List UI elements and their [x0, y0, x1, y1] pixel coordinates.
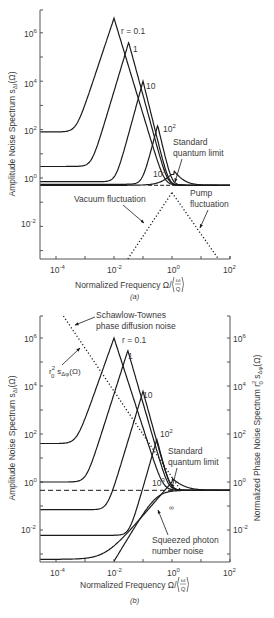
x-tick-label: 10-4 — [50, 567, 65, 578]
label-r-100: 102 — [163, 123, 176, 134]
label-schawlow-townes-line2: phase diffusion noise — [96, 321, 176, 331]
omega-over-q-fraction: ω Q — [173, 277, 184, 292]
y-tick-label-right: 106 — [233, 333, 246, 344]
label-r-100: 102 — [160, 428, 173, 439]
label-r-0.1: r = 0.1 — [121, 26, 146, 36]
label-sql-line2: quantum limit — [168, 457, 219, 467]
label-squeezed-line2: number noise — [152, 546, 204, 556]
svg-text:ω: ω — [176, 277, 181, 283]
curve-r-0-1 — [40, 338, 230, 490]
figure: 10-4 10-2 100 102 106 104 102 100 10-2 A… — [0, 0, 274, 618]
svg-text:Q: Q — [176, 286, 181, 292]
panel-b-annotations: Schawlow-Townes phase diffusion noise r2… — [49, 310, 219, 556]
x-tick-label: 102 — [223, 264, 236, 275]
label-sql-line1: Standard — [173, 137, 208, 147]
panel-a-y-tick-labels: 106 104 102 100 10-2 — [21, 28, 37, 229]
x-tick-label: 10-2 — [107, 567, 122, 578]
omega-over-q-fraction: ω Q — [178, 577, 189, 592]
vacuum-arrow — [123, 205, 144, 223]
panel-b-y-label-left: Amplitude Noise Spectrum sΔI(Ω) — [7, 375, 18, 500]
panel-b-x-label: Normalized Frequency Ω/ — [80, 580, 177, 590]
label-r-1000: 103 — [152, 477, 165, 488]
panel-b-x-tick-labels: 10-4 10-2 100 102 — [50, 567, 236, 578]
panel-b: 10-4 10-2 100 102 106 104 102 100 10-2 1… — [7, 310, 264, 605]
label-schawlow-townes-line1: Schawlow-Townes — [96, 310, 166, 320]
panel-b-caption: (b) — [130, 596, 140, 605]
label-squeezed-line1: Squeezed photon — [152, 535, 219, 545]
label-sql-line1: Standard — [168, 446, 203, 456]
y-tick-label-right: 102 — [233, 429, 246, 440]
panel-b-y-tick-labels-left: 106 104 102 100 10-2 — [21, 333, 37, 535]
panel-a-x-label: Normalized Frequency Ω/ — [75, 280, 172, 290]
label-pump-line2: fluctuation — [190, 199, 229, 209]
x-tick-label: 10-2 — [107, 264, 122, 275]
y-tick-label: 100 — [24, 477, 37, 488]
label-pump-line1: Pump — [190, 188, 212, 198]
y-tick-label-right: 100 — [233, 477, 246, 488]
x-tick-label: 100 — [167, 264, 180, 275]
panel-b-curves — [40, 316, 230, 561]
label-r-10: 10 — [146, 81, 156, 91]
x-tick-label: 10-4 — [50, 264, 65, 275]
squeezed-arrow — [158, 510, 168, 535]
curve-1 — [40, 43, 230, 185]
y-tick-label-right: 10-2 — [233, 524, 248, 535]
panel-a: 10-4 10-2 100 102 106 104 102 100 10-2 A… — [7, 10, 236, 301]
label-phase-noise-expression: r20sΔφ(Ω) — [49, 365, 81, 379]
y-tick-label: 102 — [24, 429, 37, 440]
x-tick-label: 100 — [167, 567, 180, 578]
schawlow-townes-arrow — [75, 317, 95, 325]
panel-b-y-tick-labels-right: 106 104 102 100 10-2 — [233, 333, 248, 535]
panel-a-caption: (a) — [130, 292, 140, 301]
phase-noise-arrow — [62, 348, 80, 365]
curve-10 — [40, 81, 230, 185]
svg-text:Q: Q — [181, 586, 186, 592]
y-tick-label: 10-2 — [21, 218, 36, 229]
panel-a-y-label: Amplitude Noise Spectrum sΔI(Ω) — [7, 71, 18, 196]
y-tick-label: 102 — [24, 125, 37, 136]
label-r-10: 10 — [143, 390, 153, 400]
pump-arrow — [200, 210, 208, 228]
panel-a-x-tick-labels: 10-4 10-2 100 102 — [50, 264, 236, 275]
y-tick-label-right: 104 — [233, 381, 246, 392]
y-tick-label: 104 — [24, 78, 37, 89]
y-tick-label: 106 — [24, 333, 37, 344]
label-r-1: 1 — [128, 351, 133, 361]
label-sql-line2: quantum limit — [173, 148, 224, 158]
svg-text:ω: ω — [181, 577, 186, 583]
y-tick-label: 100 — [24, 173, 37, 184]
label-r-0.1: r = 0.1 — [122, 335, 147, 345]
label-vacuum-fluctuation: Vacuum fluctuation — [74, 194, 146, 204]
y-tick-label: 10-2 — [21, 524, 36, 535]
y-tick-label: 104 — [24, 381, 37, 392]
panel-b-y-label-right: Normalized Phase Noise Spectrum r20 sΔφ(… — [251, 354, 264, 521]
label-r-1: 1 — [133, 44, 138, 54]
x-tick-label: 102 — [223, 567, 236, 578]
y-tick-label: 106 — [24, 28, 37, 39]
label-r-infinity: ∞ — [169, 504, 174, 511]
